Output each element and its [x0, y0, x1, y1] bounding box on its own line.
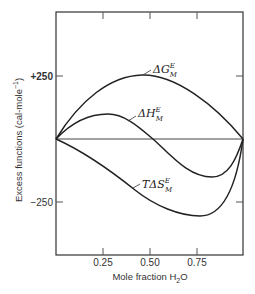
bottom-ticks: [103, 248, 197, 255]
y-tick-label-pos: +250: [30, 71, 53, 82]
svg-text:TΔSEM: TΔSEM: [142, 177, 173, 194]
delta-h-annotation: ΔHEM: [128, 106, 164, 123]
x-tick-label-025: 0.25: [93, 257, 113, 268]
svg-text:ΔHEM: ΔHEM: [137, 106, 164, 123]
delta-g-annotation: ΔGEM: [143, 62, 178, 79]
x-tick-label-075: 0.75: [187, 257, 207, 268]
delta-h-curve: [56, 114, 243, 177]
x-tick-label-050: 0.50: [140, 257, 160, 268]
y-tick-label-neg: −250: [30, 197, 53, 208]
t-delta-s-annotation: TΔSEM: [133, 177, 173, 194]
plot-frame: [56, 12, 243, 255]
excess-functions-chart: ΔGEM ΔHEM TΔSEM +250 −250 0.25 0.50 0.75…: [0, 0, 255, 294]
y-axis-label: Excess functions (cal-mole−1): [12, 78, 24, 202]
x-axis-label: Mole fraction H2O: [112, 271, 187, 284]
top-ticks: [103, 12, 197, 19]
